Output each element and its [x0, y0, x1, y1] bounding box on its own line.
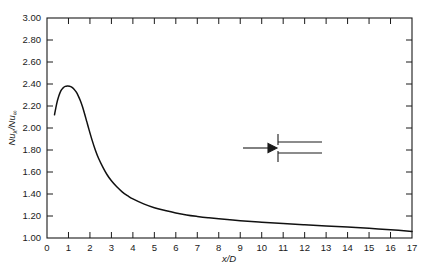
data-series-curve: [55, 86, 412, 231]
y-axis-title-main: Nu: [6, 133, 17, 146]
nusselt-number-line-chart: 01234567891011121314151617 1.001.201.401…: [0, 0, 429, 278]
pipe-entrance-schematic-icon: [243, 134, 322, 162]
y-tick-label-2.40: 2.40: [23, 78, 42, 89]
x-tick-label-17: 17: [407, 242, 418, 253]
y-tick-label-1.00: 1.00: [23, 232, 42, 243]
x-tick-label-8: 8: [216, 242, 221, 253]
y-tick-label-2.60: 2.60: [23, 56, 42, 67]
x-tick-label-0: 0: [44, 242, 49, 253]
y-tick-label-2.20: 2.20: [23, 100, 42, 111]
plot-frame: [47, 18, 412, 238]
y-axis-title: Nux/Nu∞: [6, 110, 18, 145]
x-tick-label-1: 1: [66, 242, 71, 253]
x-tick-label-9: 9: [238, 242, 243, 253]
svg-text:x/D: x/D: [221, 253, 236, 264]
y-axis-ticks-right: [406, 40, 412, 216]
x-axis-ticks-top: [68, 18, 390, 24]
x-tick-label-11: 11: [278, 242, 288, 253]
x-tick-label-15: 15: [364, 242, 375, 253]
x-axis-ticks-bottom: [68, 232, 390, 238]
x-tick-label-2: 2: [87, 242, 92, 253]
y-tick-label-2.80: 2.80: [23, 34, 42, 45]
x-tick-label-6: 6: [173, 242, 178, 253]
x-axis-title-denominator: /D: [226, 253, 237, 264]
y-tick-label-1.60: 1.60: [23, 166, 42, 177]
x-axis-title: x/D: [221, 253, 236, 264]
x-tick-label-16: 16: [385, 242, 396, 253]
y-axis-tick-labels: 1.001.201.401.601.802.002.202.402.602.80…: [23, 12, 42, 243]
y-axis-ticks-left: [47, 40, 53, 216]
y-axis-title-sub-inf: ∞: [11, 110, 18, 115]
y-tick-label-1.80: 1.80: [23, 144, 42, 155]
x-tick-label-5: 5: [152, 242, 157, 253]
flow-arrow-head: [268, 144, 277, 153]
y-tick-label-2.00: 2.00: [23, 122, 42, 133]
y-tick-label-3.00: 3.00: [23, 12, 42, 23]
x-tick-label-14: 14: [342, 242, 353, 253]
y-tick-label-1.20: 1.20: [23, 210, 42, 221]
x-axis-tick-labels: 01234567891011121314151617: [44, 242, 417, 253]
x-tick-label-13: 13: [321, 242, 332, 253]
x-tick-label-10: 10: [256, 242, 267, 253]
x-tick-label-3: 3: [109, 242, 114, 253]
x-tick-label-4: 4: [130, 242, 135, 253]
x-tick-label-12: 12: [299, 242, 310, 253]
chart-figure: 01234567891011121314151617 1.001.201.401…: [0, 0, 429, 278]
x-tick-label-7: 7: [195, 242, 200, 253]
y-axis-title-slash: /Nu: [6, 115, 17, 132]
y-tick-label-1.40: 1.40: [23, 188, 42, 199]
svg-text:Nux/Nu∞: Nux/Nu∞: [6, 110, 18, 145]
